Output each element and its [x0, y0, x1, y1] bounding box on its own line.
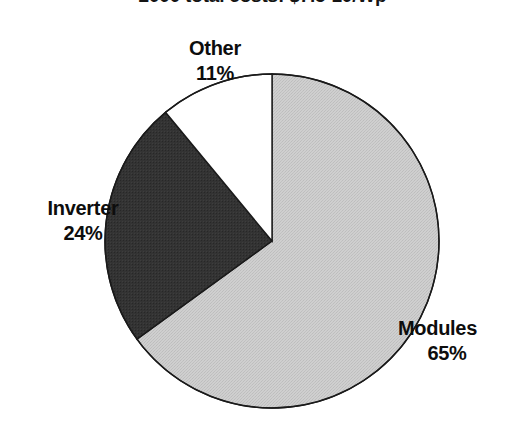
slice-label-modules-value: 65%	[398, 341, 496, 366]
slice-label-inverter: Inverter 24%	[18, 196, 148, 246]
slice-label-other-value: 11%	[155, 61, 275, 86]
slice-label-modules-name: Modules	[398, 316, 518, 341]
slice-label-inverter-name: Inverter	[18, 196, 148, 221]
slice-label-other-name: Other	[155, 36, 275, 61]
slice-label-inverter-value: 24%	[18, 221, 148, 246]
pie-slices-group	[105, 74, 439, 408]
slice-label-other: Other 11%	[155, 36, 275, 86]
slice-label-modules: Modules 65%	[398, 316, 518, 366]
pie-chart-figure: 2000 total costs: $7.5-10/Wp Oth	[0, 0, 525, 438]
